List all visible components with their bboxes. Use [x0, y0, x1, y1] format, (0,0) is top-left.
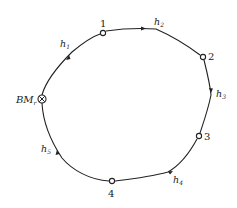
station-label: 4 [108, 188, 114, 199]
route-segment-h5 [42, 103, 109, 181]
station-label: 3 [204, 131, 210, 142]
benchmark-label: BMr [15, 94, 38, 106]
station-marker-icon [109, 178, 114, 183]
segment-label-h5: h5 [41, 143, 51, 155]
route-segment-h2 [106, 29, 200, 55]
segment-label-h1: h1 [60, 38, 70, 50]
segment-label-h2: h2 [154, 16, 164, 28]
route-segment-h4 [115, 139, 197, 181]
station-label: 1 [100, 18, 106, 29]
station-label: 2 [208, 51, 214, 62]
benchmark-symbol-icon [38, 95, 46, 103]
route-segment-h3 [200, 60, 211, 133]
station-marker-icon [200, 54, 205, 59]
station-2: 2 [200, 51, 214, 62]
arrow-h3-icon [209, 88, 213, 93]
arrow-h2-icon [141, 27, 146, 31]
station-3: 3 [196, 131, 210, 142]
leveling-route-diagram: BMr 1 2 3 4 h1 h2 h3 h4 h5 [0, 0, 237, 208]
station-1: 1 [100, 18, 106, 36]
route-segment-h1 [42, 34, 100, 95]
segment-label-h4: h4 [173, 174, 183, 186]
segment-label-h3: h3 [216, 88, 226, 100]
station-4: 4 [108, 178, 115, 199]
station-marker-icon [196, 133, 201, 138]
station-marker-icon [100, 30, 105, 35]
